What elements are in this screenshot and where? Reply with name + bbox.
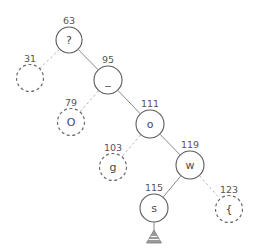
tree-edge bbox=[122, 135, 140, 156]
nodes-layer: ?6331_95O79o111g103w119s115{123 bbox=[17, 15, 243, 223]
tree-node[interactable]: ?63 bbox=[56, 15, 82, 53]
node-key-label: 119 bbox=[181, 139, 199, 150]
tree-edge bbox=[200, 176, 220, 199]
tree-edge bbox=[80, 91, 98, 112]
node-key-label: 79 bbox=[65, 97, 77, 108]
tree-node[interactable]: o111 bbox=[136, 98, 164, 138]
node-value-label: _ bbox=[104, 74, 111, 87]
tree-node[interactable]: s115 bbox=[140, 182, 168, 222]
tree-edge bbox=[78, 50, 97, 70]
tree-node[interactable]: _95 bbox=[94, 54, 122, 94]
node-key-label: 103 bbox=[104, 142, 122, 153]
node-key-label: 63 bbox=[63, 15, 75, 26]
tree-edge bbox=[160, 134, 180, 154]
node-value-label: s bbox=[151, 202, 157, 215]
node-value-label: O bbox=[67, 116, 76, 129]
tree-edge bbox=[118, 90, 140, 113]
node-key-label: 115 bbox=[145, 182, 163, 193]
markers-layer bbox=[147, 222, 162, 243]
node-key-label: 123 bbox=[220, 184, 238, 195]
node-key-label: 111 bbox=[141, 98, 159, 109]
tree-node[interactable]: O79 bbox=[58, 97, 85, 136]
binary-tree-diagram: ?6331_95O79o111g103w119s115{123 bbox=[0, 0, 259, 252]
node-key-label: 31 bbox=[24, 53, 36, 64]
node-value-label: o bbox=[147, 118, 154, 131]
node-value-label: { bbox=[226, 203, 233, 216]
tree-svg-canvas: ?6331_95O79o111g103w119s115{123 bbox=[0, 0, 259, 252]
node-circle-dashed[interactable] bbox=[17, 65, 44, 92]
node-value-label: g bbox=[110, 161, 117, 174]
tree-node[interactable]: g103 bbox=[100, 142, 127, 181]
tree-node[interactable]: w119 bbox=[176, 139, 204, 179]
node-value-label: ? bbox=[66, 34, 72, 47]
node-value-label: w bbox=[186, 159, 195, 172]
pyramid-marker bbox=[147, 222, 162, 243]
tree-edge bbox=[163, 176, 180, 197]
node-key-label: 95 bbox=[102, 54, 114, 65]
tree-node[interactable]: 31 bbox=[17, 53, 44, 92]
tree-node[interactable]: {123 bbox=[216, 184, 243, 223]
tree-edge bbox=[40, 49, 59, 68]
